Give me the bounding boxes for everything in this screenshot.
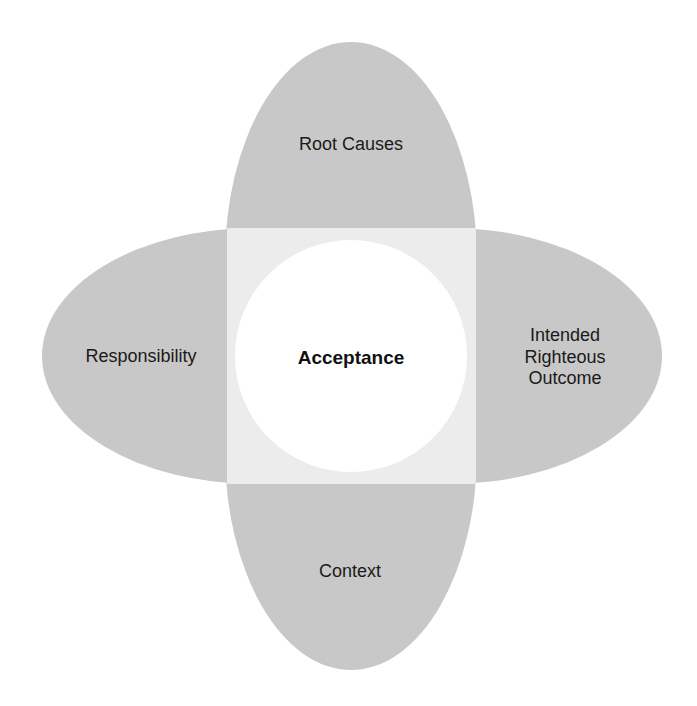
petal-label-root-causes: Root Causes xyxy=(299,134,403,156)
petal-label-line: Righteous xyxy=(524,346,605,368)
petal-label-intended-righteous-outcome: Intended Righteous Outcome xyxy=(524,325,605,390)
petal-label-line: Outcome xyxy=(524,368,605,390)
petal-label-context: Context xyxy=(319,561,381,583)
petal-label-responsibility: Responsibility xyxy=(85,346,196,368)
petal-label-line: Intended xyxy=(524,325,605,347)
center-label-acceptance: Acceptance xyxy=(298,347,405,370)
